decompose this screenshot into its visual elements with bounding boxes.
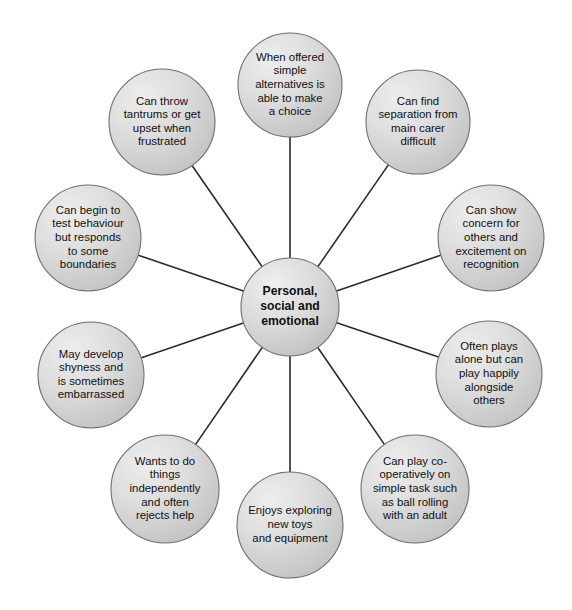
node-label: Wants to dothingsindependentlyand oftenr… bbox=[130, 455, 201, 521]
node-label: Personal,social andemotional bbox=[260, 285, 320, 328]
node-develops-shyness: May developshyness andis sometimesembarr… bbox=[38, 322, 144, 428]
connector-co-operative-play bbox=[317, 347, 384, 445]
node-label: Can play co-operatively onsimple task su… bbox=[373, 455, 457, 521]
node-offered-simple-alternatives: When offeredsimplealternatives isable to… bbox=[238, 33, 342, 137]
connector-wants-independence bbox=[195, 347, 262, 445]
connector-throws-tantrums bbox=[192, 165, 263, 267]
node-tests-behaviour-boundaries: Can begin totest behaviourbut respondsto… bbox=[35, 185, 141, 291]
node-label: Can begin totest behaviourbut respondsto… bbox=[52, 204, 124, 270]
diagram-canvas: When offeredsimplealternatives isable to… bbox=[0, 0, 572, 610]
node-wants-independence: Wants to dothingsindependentlyand oftenr… bbox=[111, 435, 219, 543]
node-concern-and-excitement: Can showconcern forothers andexcitement … bbox=[438, 185, 544, 291]
node-separation-from-carer: Can findseparation frommain carerdifficu… bbox=[366, 70, 470, 174]
node-circles: When offeredsimplealternatives isable to… bbox=[35, 33, 544, 578]
concept-map-diagram: When offeredsimplealternatives isable to… bbox=[0, 0, 572, 610]
connector-plays-alone-alongside bbox=[336, 322, 439, 357]
connector-concern-and-excitement bbox=[336, 255, 441, 291]
connector-separation-from-carer bbox=[318, 164, 389, 267]
node-co-operative-play: Can play co-operatively onsimple task su… bbox=[361, 435, 469, 543]
connector-tests-behaviour-boundaries bbox=[138, 255, 244, 291]
node-throws-tantrums: Can throwtantrums or getupset whenfrustr… bbox=[109, 69, 215, 175]
node-label: May developshyness andis sometimesembarr… bbox=[58, 348, 125, 401]
node-enjoys-exploring-toys: Enjoys exploringnew toysand equipment bbox=[237, 472, 343, 578]
center-node: Personal,social andemotional bbox=[241, 258, 339, 356]
node-plays-alone-alongside: Often playsalone but canplay happilyalon… bbox=[436, 321, 542, 427]
connector-develops-shyness bbox=[141, 323, 244, 358]
node-label: Can showconcern forothers andexcitement … bbox=[456, 204, 527, 270]
